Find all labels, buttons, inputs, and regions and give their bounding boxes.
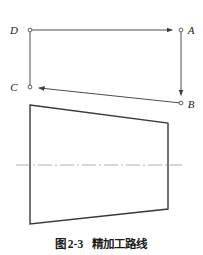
caption-title: 精加工路线 — [92, 237, 148, 251]
toolpath-diagram: D A C B — [9, 24, 195, 110]
vertex-node-D — [28, 28, 32, 32]
figure-caption: 图2-3精加工路线 — [0, 235, 203, 251]
figure-container: D A C B 图2-3精加工路线 — [0, 0, 203, 255]
workpiece-profile — [16, 105, 182, 224]
workpiece-outline — [30, 105, 168, 224]
vertex-node-B — [179, 101, 183, 105]
caption-number: 2-3 — [68, 238, 84, 250]
technical-drawing-svg: D A C B — [0, 0, 203, 255]
vertex-node-A — [179, 28, 183, 32]
vertex-label-D: D — [9, 24, 18, 36]
vertex-label-C: C — [10, 81, 18, 93]
caption-prefix: 图 — [55, 237, 66, 251]
vertex-label-A: A — [187, 24, 195, 36]
vertex-label-B: B — [188, 98, 195, 110]
path-segment-B-to-C — [39, 88, 179, 103]
vertex-node-C — [28, 85, 32, 89]
